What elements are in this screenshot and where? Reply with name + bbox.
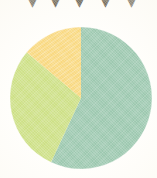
pie-chart-figure: ▼▼▼▼▼ xyxy=(0,0,157,178)
pie-chart-svg xyxy=(0,0,157,178)
pie-texture-overlay xyxy=(10,27,152,169)
pie-chart-container xyxy=(0,0,157,178)
